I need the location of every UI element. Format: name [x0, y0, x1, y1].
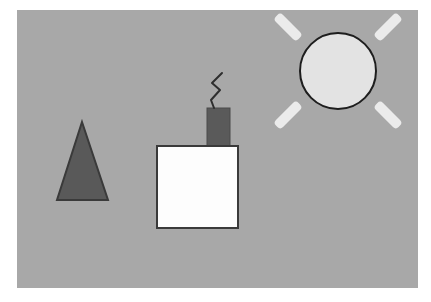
tree-triangle-icon	[57, 122, 108, 200]
sun-ray-bottom-left-icon	[273, 100, 303, 130]
smoke-zigzag-icon	[211, 73, 222, 108]
scene-illustration	[17, 10, 418, 288]
sun-circle-icon	[300, 33, 376, 109]
sun-ray-bottom-right-icon	[373, 100, 403, 130]
drawing-canvas	[17, 10, 418, 288]
house-body-square-icon	[157, 146, 238, 228]
drawing-page	[0, 0, 431, 302]
chimney-rectangle-icon	[207, 108, 230, 150]
sun-ray-top-left-icon	[273, 12, 303, 42]
sun-ray-top-right-icon	[373, 12, 403, 42]
